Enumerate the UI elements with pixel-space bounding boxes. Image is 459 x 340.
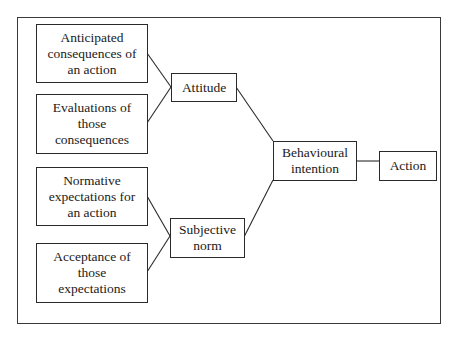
- node-text: Acceptance of: [53, 249, 131, 265]
- node-text: an action: [49, 205, 136, 221]
- node-text: norm: [179, 238, 236, 254]
- node-text: expectations for: [49, 189, 136, 205]
- node-text: Anticipated: [48, 30, 137, 46]
- node-text: an action: [48, 62, 137, 78]
- node-text: Evaluations of: [53, 100, 131, 116]
- node-text: Action: [390, 158, 427, 174]
- node-text: Attitude: [182, 80, 226, 96]
- node-text: those: [53, 116, 131, 132]
- node-text: Subjective: [179, 222, 236, 238]
- node-behavioural-intention: Behavioural intention: [273, 141, 357, 181]
- node-acceptance-of-expectations: Acceptance of those expectations: [36, 243, 148, 303]
- node-anticipated-consequences: Anticipated consequences of an action: [36, 24, 148, 83]
- node-text: those: [53, 265, 131, 281]
- node-subjective-norm: Subjective norm: [170, 218, 245, 258]
- node-text: Behavioural: [282, 145, 348, 161]
- node-action: Action: [379, 151, 437, 181]
- node-attitude: Attitude: [171, 73, 237, 102]
- node-text: intention: [282, 161, 348, 177]
- node-text: consequences of: [48, 46, 137, 62]
- node-text: consequences: [53, 132, 131, 148]
- node-text: Normative: [49, 173, 136, 189]
- node-normative-expectations: Normative expectations for an action: [36, 167, 148, 226]
- node-text: expectations: [53, 281, 131, 297]
- node-evaluations-of-consequences: Evaluations of those consequences: [36, 94, 148, 154]
